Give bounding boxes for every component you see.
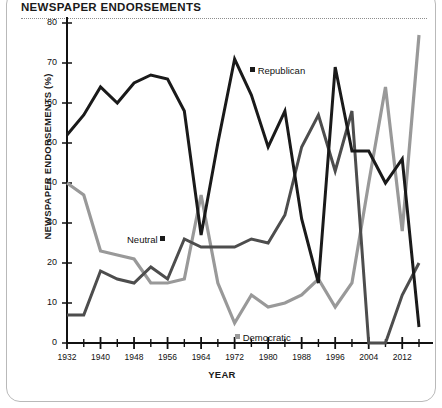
- series-lines: [67, 35, 419, 343]
- plot-area: 01020304050607080 1932194019481956196419…: [7, 1, 436, 393]
- y-tick-label: 20: [31, 257, 57, 267]
- series-label-republican: Republican: [250, 64, 305, 76]
- series-label-democratic: Democratic: [235, 331, 291, 343]
- y-axis-title: NEWSPAPER ENDORSEMENTS (%): [42, 67, 53, 247]
- chart-card: NEWSPAPER ENDORSEMENTS 01020304050607080…: [6, 0, 436, 402]
- neutral-label-text: Neutral: [127, 234, 158, 245]
- republican-swatch-icon: [250, 67, 255, 72]
- neutral-swatch-icon: [160, 236, 165, 241]
- y-tick-label: 80: [31, 17, 57, 27]
- republican-label-text: Republican: [258, 65, 306, 76]
- democratic-swatch-icon: [235, 334, 240, 339]
- democratic-label-text: Democratic: [243, 332, 291, 343]
- x-axis-title: YEAR: [7, 369, 436, 380]
- chart-svg: [7, 1, 436, 393]
- y-tick-label: 0: [31, 337, 57, 347]
- series-label-neutral: Neutral: [127, 233, 165, 245]
- x-tick-label: 2012: [382, 352, 422, 362]
- y-tick-label: 70: [31, 57, 57, 67]
- y-tick-label: 10: [31, 297, 57, 307]
